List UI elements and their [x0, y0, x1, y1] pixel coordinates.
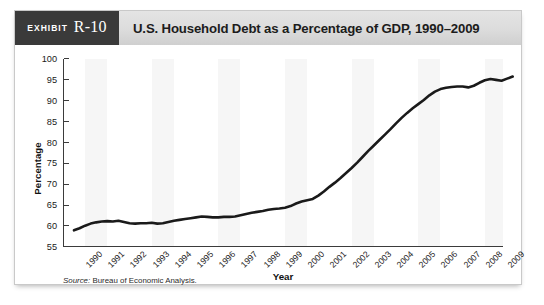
x-tick-1991: 1991: [106, 249, 127, 270]
y-tick-mark: [64, 246, 69, 247]
x-tick-2005: 2005: [417, 249, 438, 270]
y-tick-mark: [64, 142, 69, 143]
y-tick-mark: [64, 100, 69, 101]
source-note: Source: Bureau of Economic Analysis.: [63, 276, 197, 285]
y-tick-90: 90: [47, 96, 64, 106]
y-tick-mark: [64, 121, 69, 122]
y-tick-80: 80: [47, 138, 64, 148]
exhibit-card: Exhibit R-10 U.S. Household Debt as a Pe…: [14, 10, 522, 285]
x-tick-1990: 1990: [84, 249, 105, 270]
y-tick-60: 60: [47, 221, 64, 231]
y-tick-mark: [64, 79, 69, 80]
source-label: Source:: [63, 276, 90, 285]
x-tick-1994: 1994: [172, 249, 193, 270]
y-tick-70: 70: [47, 179, 64, 189]
chart-region: Percentage 100959085807570656055 1990199…: [15, 45, 521, 286]
y-tick-100: 100: [42, 54, 64, 64]
plot-area: 100959085807570656055 199019911992199319…: [63, 59, 503, 247]
x-tick-2000: 2000: [306, 249, 327, 270]
debt-line-chart: [64, 59, 504, 247]
x-tick-1997: 1997: [239, 249, 260, 270]
y-tick-mark: [64, 205, 69, 206]
y-tick-85: 85: [47, 117, 64, 127]
x-tick-2009: 2009: [506, 249, 527, 270]
exhibit-header: Exhibit R-10 U.S. Household Debt as a Pe…: [15, 11, 521, 45]
x-tick-2007: 2007: [461, 249, 482, 270]
x-tick-2003: 2003: [372, 249, 393, 270]
x-tick-2001: 2001: [328, 249, 349, 270]
y-tick-75: 75: [47, 158, 64, 168]
series-line-household-debt: [74, 77, 513, 231]
y-tick-mark: [64, 184, 69, 185]
x-tick-2006: 2006: [439, 249, 460, 270]
exhibit-badge: Exhibit R-10: [15, 11, 119, 45]
source-text: Bureau of Economic Analysis.: [92, 276, 196, 285]
page-title: U.S. Household Debt as a Percentage of G…: [119, 11, 521, 45]
y-tick-95: 95: [47, 75, 64, 85]
x-tick-2008: 2008: [483, 249, 504, 270]
x-tick-1993: 1993: [150, 249, 171, 270]
y-axis-title: Percentage: [32, 129, 43, 209]
y-tick-mark: [64, 225, 69, 226]
x-tick-1998: 1998: [261, 249, 282, 270]
x-tick-1995: 1995: [195, 249, 216, 270]
exhibit-number: R-10: [74, 18, 107, 36]
x-tick-2002: 2002: [350, 249, 371, 270]
x-tick-1996: 1996: [217, 249, 238, 270]
y-tick-65: 65: [47, 200, 64, 210]
exhibit-label: Exhibit: [27, 23, 68, 33]
x-tick-1992: 1992: [128, 249, 149, 270]
x-tick-2004: 2004: [395, 249, 416, 270]
x-tick-1999: 1999: [283, 249, 304, 270]
y-tick-mark: [64, 163, 69, 164]
y-tick-mark: [64, 58, 69, 59]
y-tick-55: 55: [47, 242, 64, 252]
